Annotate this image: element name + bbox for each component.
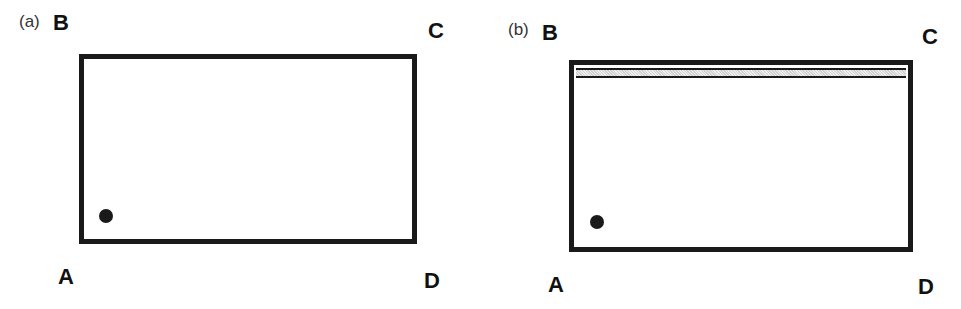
shaded-band [576, 68, 906, 78]
corner-c-label: C [922, 24, 938, 50]
panel-a-label: (a) [19, 12, 40, 32]
corner-d-label: D [424, 268, 440, 294]
panel-b-label: (b) [508, 20, 529, 40]
corner-b-label: B [53, 10, 69, 36]
corner-d-label: D [918, 274, 934, 300]
corner-b-label: B [542, 20, 558, 46]
point-marker [590, 215, 604, 229]
rectangle-abcd [569, 60, 913, 252]
rectangle-abcd [79, 54, 417, 244]
corner-a-label: A [548, 272, 564, 298]
corner-a-label: A [58, 264, 74, 290]
point-marker [99, 209, 113, 223]
corner-c-label: C [428, 18, 444, 44]
